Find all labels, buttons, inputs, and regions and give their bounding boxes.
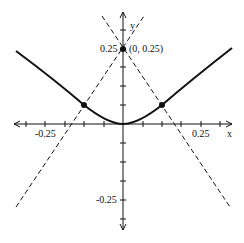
x-tick-label-pos: 0.25 (192, 128, 210, 139)
point-right (159, 102, 165, 108)
y-tick-label-pos: 0.25 (100, 43, 118, 54)
point-left (81, 102, 87, 108)
tangent-right (102, 16, 230, 207)
plot-area (0, 0, 244, 243)
tangent-left (16, 16, 144, 207)
x-axis-label: x (227, 128, 232, 139)
y-axis-label: y (130, 20, 135, 31)
point-intercept (120, 46, 126, 52)
point-label: (0, 0.25) (129, 43, 163, 54)
x-tick-label-neg: -0.25 (35, 128, 56, 139)
chart: y x 0.25 -0.25 -0.25 0.25 (0, 0.25) (0, 0, 244, 243)
y-tick-label-neg: -0.25 (96, 194, 117, 205)
